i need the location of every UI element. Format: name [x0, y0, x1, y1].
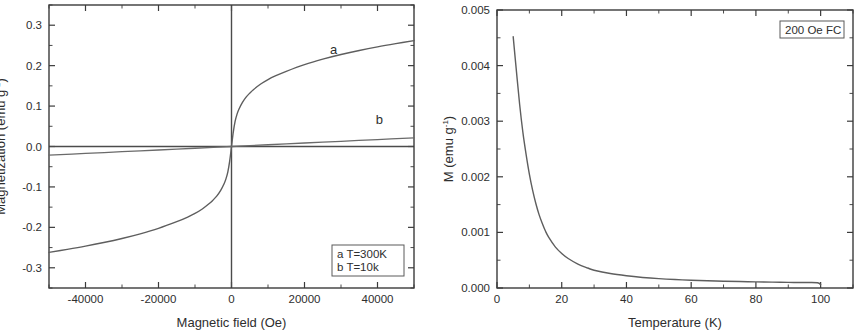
right-x-axis-title: Temperature (K) [628, 315, 722, 330]
right-y-axis-title-close: ) [441, 116, 456, 120]
right-x-major-ticks [497, 10, 821, 288]
left-x-tick-label: 20000 [289, 293, 321, 305]
right-y-tick-label: 0.005 [461, 4, 490, 16]
left-y-tick-label: 0.0 [26, 141, 42, 153]
right-y-tick-label: 0.001 [461, 226, 490, 238]
left-legend-entry-a: a T=300K [337, 248, 387, 260]
right-y-tick-label: 0.004 [461, 60, 490, 72]
left-y-axis-title-main: Magnetization (emu g [0, 90, 8, 215]
left-y-tick-label: -0.1 [22, 181, 42, 193]
right-plot-svg: 020406080100 0.0000.0010.0020.0030.0040.… [431, 0, 862, 335]
right-x-tick-label: 80 [750, 293, 763, 305]
left-x-tick-labels: -40000-2000002000040000 [68, 293, 394, 305]
right-y-major-ticks [497, 10, 853, 288]
right-x-tick-label: 0 [494, 293, 500, 305]
right-y-minor-ticks [497, 38, 853, 260]
right-y-tick-label: 0.003 [461, 115, 490, 127]
right-y-tick-labels: 0.0000.0010.0020.0030.0040.005 [461, 4, 490, 294]
left-x-tick-label: -40000 [68, 293, 104, 305]
right-y-tick-label: 0.000 [461, 282, 490, 294]
left-y-tick-label: 0.1 [26, 100, 42, 112]
left-x-tick-label: -20000 [141, 293, 177, 305]
left-y-tick-label: -0.3 [22, 262, 42, 274]
right-x-tick-label: 100 [811, 293, 830, 305]
right-y-axis-title: M (emu g-1) [441, 116, 456, 182]
right-y-tick-label: 0.002 [461, 171, 490, 183]
left-y-axis-title-close: ) [0, 78, 8, 82]
left-x-tick-label: 40000 [362, 293, 394, 305]
left-legend: a T=300K b T=10k [332, 245, 404, 276]
right-legend-entry-fc: 200 Oe FC [785, 24, 841, 36]
right-plot-frame [497, 10, 853, 288]
left-y-tick-labels: -0.3-0.2-0.10.00.10.20.3 [22, 19, 42, 274]
left-y-tick-label: -0.2 [22, 221, 42, 233]
right-x-tick-labels: 020406080100 [494, 293, 830, 305]
right-x-tick-label: 20 [555, 293, 568, 305]
left-y-tick-label: 0.2 [26, 60, 42, 72]
left-y-tick-label: 0.3 [26, 19, 42, 31]
right-x-tick-label: 60 [685, 293, 698, 305]
panel-magnetization-vs-temperature: 020406080100 0.0000.0010.0020.0030.0040.… [431, 0, 862, 335]
right-x-tick-label: 40 [620, 293, 633, 305]
figure-container: -40000-2000002000040000 -0.3-0.2-0.10.00… [0, 0, 862, 335]
left-x-axis-title: Magnetic field (Oe) [177, 315, 287, 330]
left-y-axis-title: Magnetization (emu g-1) [0, 78, 8, 214]
left-curve-label-a: a [330, 42, 338, 57]
right-x-minor-ticks [529, 10, 853, 288]
left-plot-svg: -40000-2000002000040000 -0.3-0.2-0.10.00… [0, 0, 431, 335]
right-legend: 200 Oe FC [780, 21, 844, 38]
left-legend-entry-b: b T=10k [337, 261, 379, 273]
right-y-axis-title-main: M (emu g [441, 127, 456, 182]
left-x-tick-label: 0 [228, 293, 234, 305]
right-series-fc-curve [513, 37, 820, 285]
left-curve-label-b: b [376, 112, 383, 127]
panel-magnetization-vs-field: -40000-2000002000040000 -0.3-0.2-0.10.00… [0, 0, 431, 335]
